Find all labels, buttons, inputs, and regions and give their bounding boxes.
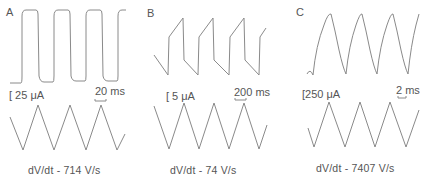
panel-a-current-scale: [ 25 μA bbox=[9, 90, 44, 101]
panel-b-time-scale: 200 ms bbox=[234, 87, 270, 98]
panel-a-label: A bbox=[6, 7, 13, 18]
panel-b-current-trace bbox=[154, 18, 266, 75]
panel-c-time-scale: 2 ms bbox=[396, 85, 420, 96]
panel-b-caption: dV/dt - 74 V/s bbox=[170, 165, 236, 176]
panel-a-caption: dV/dt - 714 V/s bbox=[28, 165, 100, 176]
panel-c-label: C bbox=[296, 7, 304, 18]
panel-b-time-scale-bar bbox=[235, 98, 246, 100]
panel-c-caption: dV/dt - 7407 V/s bbox=[316, 163, 395, 174]
panel-c-time-scale-bar bbox=[398, 96, 406, 98]
panel-c-current-trace bbox=[307, 14, 419, 75]
panel-a-time-scale: 20 ms bbox=[95, 86, 125, 97]
panel-b-current-scale: [ 5 μA bbox=[166, 91, 195, 102]
panel-c-voltage-trace bbox=[308, 102, 419, 147]
panel-c-current-scale: [250 μA bbox=[302, 89, 340, 100]
panel-b-voltage-trace bbox=[154, 103, 267, 149]
panel-a-voltage-trace bbox=[10, 105, 125, 150]
panel-a-time-scale-bar bbox=[95, 99, 106, 101]
panel-b-label: B bbox=[147, 8, 154, 19]
panel-a-current-trace bbox=[10, 10, 126, 83]
figure-traces bbox=[0, 0, 421, 179]
